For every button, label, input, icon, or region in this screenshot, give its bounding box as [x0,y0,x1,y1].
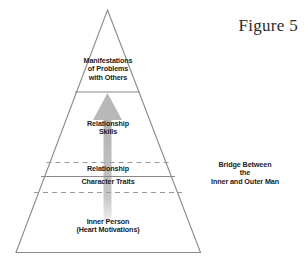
upward-arrow-icon [93,93,122,222]
pyramid-level-label-inner-person: Inner Person(Heart Motivations) [46,218,170,235]
pyramid-level-label-relationship-skills: RelationshipSkills [57,120,159,137]
figure-canvas: Figure 5 Manifestationsof Problemswith O… [0,0,306,270]
pyramid-level-label-character-traits: Character Traits [52,178,164,186]
figure-title: Figure 5 [238,16,298,36]
annotation-bridge-between-inner-and-outer-man: Bridge BetweentheInner and Outer Man [186,161,304,186]
pyramid-level-label-manifestations: Manifestationsof Problemswith Others [52,57,164,82]
pyramid-level-label-relationship: Relationship [57,165,159,173]
